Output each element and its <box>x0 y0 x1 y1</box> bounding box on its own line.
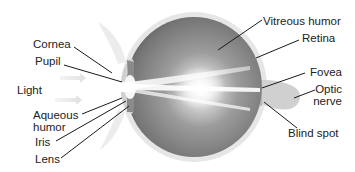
eye-diagram: Cornea Pupil Light Aqueous humor Iris Le… <box>0 0 355 172</box>
label-optic-nerve: Optic nerve <box>312 83 342 107</box>
label-retina: Retina <box>302 32 335 44</box>
label-optic-line2: nerve <box>312 95 342 107</box>
label-iris: Iris <box>35 136 50 148</box>
label-aqueous-line1: Aqueous <box>33 109 78 121</box>
label-cornea: Cornea <box>33 38 71 50</box>
label-fovea: Fovea <box>310 66 342 78</box>
label-vitreous-humor: Vitreous humor <box>263 15 341 27</box>
label-aqueous-line2: humor <box>33 121 78 133</box>
label-blind-spot: Blind spot <box>288 127 339 139</box>
label-light: Light <box>17 84 42 96</box>
focal-glow <box>174 66 226 110</box>
label-pupil: Pupil <box>35 55 61 67</box>
label-aqueous-humor: Aqueous humor <box>33 109 78 133</box>
label-lens: Lens <box>35 153 60 165</box>
label-optic-line1: Optic <box>312 83 342 95</box>
